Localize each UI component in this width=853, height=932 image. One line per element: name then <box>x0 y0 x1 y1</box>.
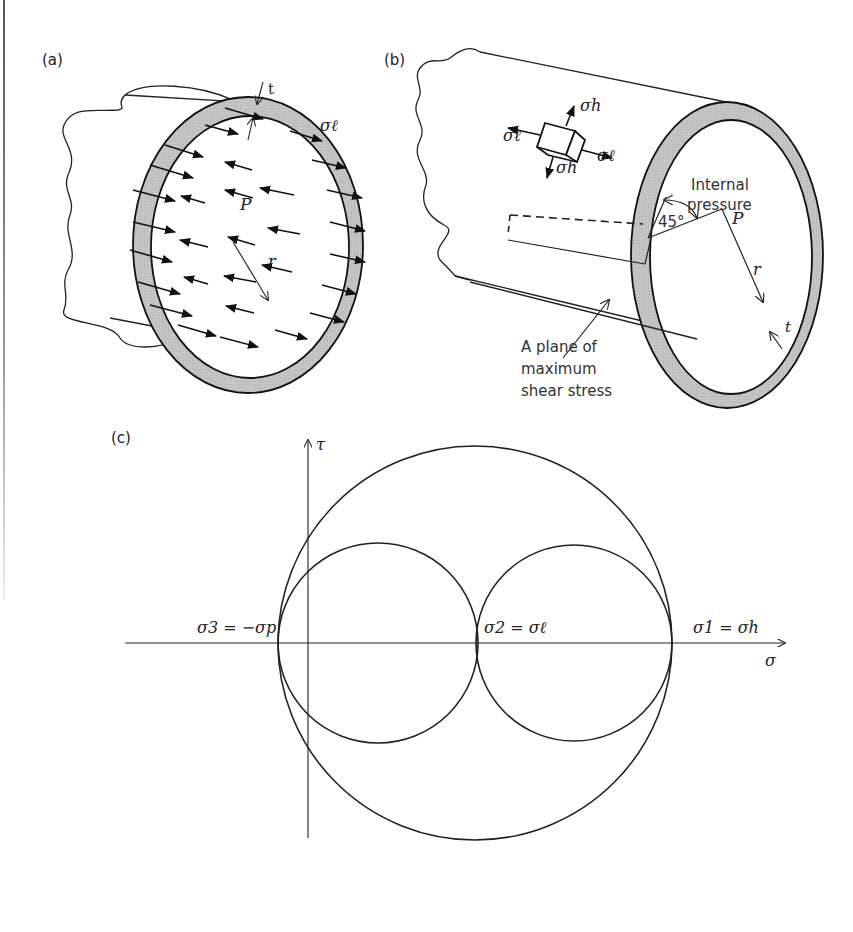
panel-b-long-left-label: σℓ <box>503 128 521 144</box>
panel-b-internal-label-1: Internal <box>691 178 749 193</box>
panel-c-mohr-diagram <box>125 440 785 840</box>
panel-a-stress-label: σℓ <box>320 118 338 134</box>
panel-b-thickness-label: t <box>785 320 791 335</box>
panel-a-radius-label: r <box>268 254 276 270</box>
sigma2-label: σ2 = σℓ <box>484 620 546 636</box>
panel-c-label: (c) <box>111 431 131 446</box>
panel-b-angle-label: 45° <box>658 215 685 230</box>
panel-b-long-right-label: σℓ <box>597 148 615 164</box>
panel-b-stress-element <box>537 123 585 162</box>
panel-b-cylinder <box>416 49 823 408</box>
sigma-axis-label: σ <box>765 653 776 669</box>
sigma3-label: σ3 = −σp <box>197 620 276 636</box>
panel-a-label: (a) <box>42 53 63 68</box>
panel-b-label: (b) <box>384 53 405 68</box>
panel-a-thickness-label: t <box>268 82 274 97</box>
panel-b-hoop-bottom-label: σh <box>556 160 577 176</box>
sigma1-label: σ1 = σh <box>693 620 759 636</box>
panel-a-cylinder <box>63 86 363 393</box>
panel-a-pressure-label: P <box>240 196 251 213</box>
panel-b-plane-label-1: A plane of <box>521 340 597 355</box>
panel-b-pressure-label: P <box>732 210 743 227</box>
panel-b-plane-label-2: maximum <box>521 362 597 377</box>
panel-b-hoop-top-label: σh <box>580 98 601 114</box>
panel-b-radius-label: r <box>753 262 761 278</box>
figure-canvas <box>0 0 853 932</box>
panel-b-plane-label-3: shear stress <box>521 384 612 399</box>
tau-axis-label: τ <box>316 437 325 453</box>
